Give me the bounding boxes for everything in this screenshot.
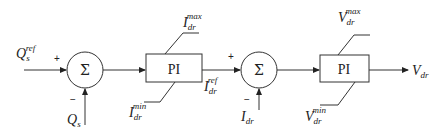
sum2-minus-sign: − [244, 94, 250, 105]
output-label: Vdr [412, 63, 429, 80]
pi2-max-limit-line [338, 35, 370, 55]
pi1-max-limit-line [165, 33, 199, 54]
control-diagram: Qsref + Σ − Qs PI Idrmax Idrmin Idrref +… [0, 0, 444, 132]
sum2-plus-sign: + [228, 51, 234, 62]
pi1-min-label: Idrmin [128, 101, 147, 122]
pi1-label: PI [168, 62, 181, 77]
pi2-label: PI [338, 62, 351, 77]
diagram-canvas: Qsref + Σ − Qs PI Idrmax Idrmin Idrref +… [0, 0, 444, 132]
sum1-sigma-icon: Σ [80, 62, 90, 78]
sum2-sigma-icon: Σ [254, 62, 264, 78]
q-meas-label: Qs [67, 112, 81, 129]
pi2-min-label: Vdrmin [305, 105, 327, 126]
sum1-minus-sign: − [70, 94, 76, 105]
i-meas-label: Idr [240, 109, 254, 126]
pi1-min-limit-line [144, 82, 175, 102]
pi2-max-label: Vdrmax [338, 6, 361, 27]
q-ref-label: Qsref [16, 43, 37, 63]
sum1-plus-sign: + [54, 53, 60, 64]
i-ref-label: Idrref [203, 75, 219, 96]
pi1-max-label: Idrmax [182, 11, 202, 32]
pi2-min-limit-line [320, 82, 355, 105]
